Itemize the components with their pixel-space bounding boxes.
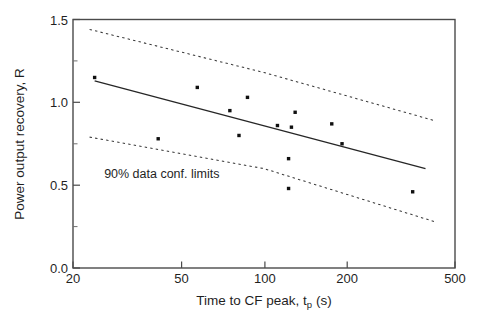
plot-frame (73, 20, 455, 269)
x-tick-label-2: 100 (254, 271, 276, 286)
x-tick-label-4: 500 (444, 271, 466, 286)
x-tick-label-1: 50 (174, 271, 188, 286)
data-point (228, 109, 231, 112)
y-tick-label-1: 0.5 (50, 178, 68, 193)
data-point (290, 125, 293, 128)
data-point (287, 187, 290, 190)
x-axis-title: Time to CF peak, tp (s) (196, 293, 331, 310)
data-point (411, 190, 414, 193)
confidence-limits-annotation: 90% data conf. limits (104, 167, 219, 181)
data-point (246, 96, 249, 99)
y-axis-title: Power output recovery, R (12, 68, 27, 220)
x-axis-major-ticks (73, 262, 455, 269)
data-point (156, 137, 159, 140)
y-tick-label-3: 1.5 (50, 13, 68, 28)
upper-confidence-limit-line (90, 29, 435, 120)
figure-container: 0.0 0.5 1.0 1.5 20 50 100 200 500 Time t… (0, 0, 484, 316)
x-axis-title-main: Time to CF peak, t (196, 293, 307, 308)
x-tick-label-0: 20 (66, 271, 80, 286)
data-point (287, 157, 290, 160)
data-point (276, 124, 279, 127)
x-tick-label-3: 200 (336, 271, 358, 286)
data-point (196, 86, 199, 89)
regression-fit-line (95, 81, 426, 169)
data-point (340, 142, 343, 145)
data-point (293, 111, 296, 114)
data-point (330, 122, 333, 125)
data-point (93, 76, 96, 79)
y-tick-label-2: 1.0 (50, 95, 68, 110)
x-axis-title-units: (s) (312, 293, 332, 308)
data-point (237, 134, 240, 137)
scatter-plot: 0.0 0.5 1.0 1.5 20 50 100 200 500 Time t… (0, 0, 484, 316)
